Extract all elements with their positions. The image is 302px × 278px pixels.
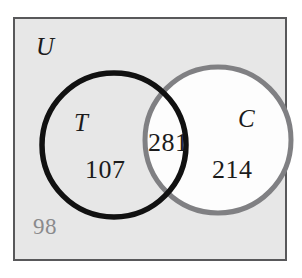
count-c-only: 214 (212, 157, 253, 183)
universe-label: U (36, 34, 54, 59)
count-intersection: 281 (148, 130, 189, 156)
set-t-label: T (74, 110, 88, 135)
count-outside-sets: 98 (33, 215, 57, 238)
venn-diagram-figure: U T C 107 281 214 98 (0, 0, 302, 278)
set-c-label: C (238, 106, 255, 131)
count-t-only: 107 (85, 157, 126, 183)
